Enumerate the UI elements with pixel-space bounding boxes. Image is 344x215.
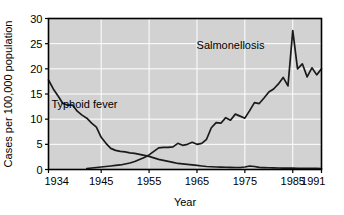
x-tick-label: 1945	[89, 175, 113, 187]
y-tick-label: 25	[30, 38, 42, 50]
y-tick-label: 10	[30, 113, 42, 125]
y-tick-label: 30	[30, 13, 42, 25]
x-axis-title: Year	[174, 196, 197, 208]
y-tick-label: 0	[36, 164, 42, 176]
annotation-salmonellosis: Salmonellosis	[197, 39, 265, 51]
y-axis-title: Cases per 100,000 population	[2, 21, 14, 168]
annotation-typhoid-fever: Typhoid fever	[51, 98, 117, 110]
y-tick-label: 15	[30, 88, 42, 100]
y-tick-label: 5	[36, 138, 42, 150]
x-tick-label: 1955	[137, 175, 161, 187]
line-chart: 051015202530 193419451955196519751985199…	[0, 0, 344, 215]
x-tick-label: 1934	[45, 175, 69, 187]
x-tick-label: 1965	[185, 175, 209, 187]
x-tick-label: 1991	[301, 175, 325, 187]
x-tick-label: 1975	[233, 175, 257, 187]
chart-figure: 051015202530 193419451955196519751985199…	[0, 0, 344, 215]
y-tick-label: 20	[30, 63, 42, 75]
